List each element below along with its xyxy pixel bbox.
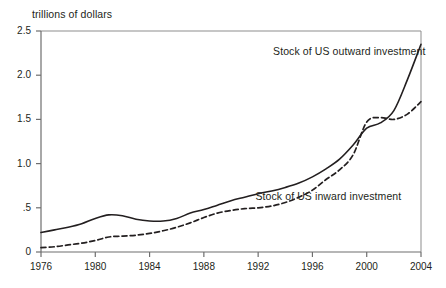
- series-label-2: Stock of US inward investment: [255, 190, 401, 202]
- x-tick-label: 1988: [184, 261, 224, 272]
- x-tick-label: 1976: [21, 261, 61, 272]
- y-tick-label: .5: [3, 202, 31, 213]
- chart-figure: trillions of dollars 0.51.01.52.02.51976…: [0, 0, 446, 288]
- x-tick-label: 1984: [130, 261, 170, 272]
- x-tick-label: 2000: [347, 261, 387, 272]
- y-tick-label: 2.5: [3, 25, 31, 36]
- series-label-1: Stock of US outward investment: [273, 45, 425, 57]
- x-tick-label: 1992: [238, 261, 278, 272]
- x-tick-label: 1996: [292, 261, 332, 272]
- series-line-1: [41, 44, 421, 232]
- x-tick-label: 2004: [401, 261, 441, 272]
- y-tick-label: 2.0: [3, 69, 31, 80]
- y-tick-label: 1.0: [3, 158, 31, 169]
- x-tick-label: 1980: [75, 261, 115, 272]
- y-tick-label: 1.5: [3, 113, 31, 124]
- y-tick-label: 0: [3, 246, 31, 257]
- line-chart-plot: [0, 0, 446, 288]
- series-line-2: [41, 102, 421, 248]
